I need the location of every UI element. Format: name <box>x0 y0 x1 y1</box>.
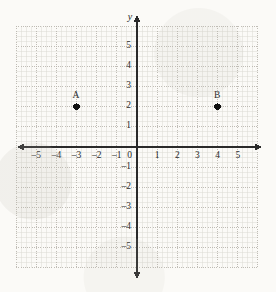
axis-lines <box>17 15 262 279</box>
y-tick-label-4: 4 <box>117 61 131 71</box>
point-label-B: B <box>210 91 224 101</box>
coordinate-plane-svg <box>0 0 276 292</box>
x-tick-label-5: 5 <box>231 151 245 161</box>
x-tick-label--3: –3 <box>70 151 84 161</box>
x-tick-label--2: –2 <box>90 151 104 161</box>
y-axis-title: y <box>124 12 136 22</box>
y-tick-label--3: –3 <box>117 202 131 212</box>
coordinate-plane-figure: –5–4–3–2–112345012345–1–2–3–4–5yAB <box>0 0 276 292</box>
x-tick-label-3: 3 <box>190 151 204 161</box>
origin-label: 0 <box>123 151 137 161</box>
y-tick-label-2: 2 <box>117 101 131 111</box>
x-tick-label-1: 1 <box>150 151 164 161</box>
x-tick-label--4: –4 <box>49 151 63 161</box>
y-tick-label--4: –4 <box>117 222 131 232</box>
x-tick-label--5: –5 <box>29 151 43 161</box>
y-tick-label-5: 5 <box>117 41 131 51</box>
y-tick-label-3: 3 <box>117 81 131 91</box>
y-tick-label--2: –2 <box>117 182 131 192</box>
y-tick-label--5: –5 <box>117 242 131 252</box>
x-tick-label-2: 2 <box>170 151 184 161</box>
point-label-A: A <box>69 91 83 101</box>
x-tick-label-4: 4 <box>211 151 225 161</box>
y-tick-label--1: –1 <box>117 162 131 172</box>
y-tick-label-1: 1 <box>117 121 131 131</box>
